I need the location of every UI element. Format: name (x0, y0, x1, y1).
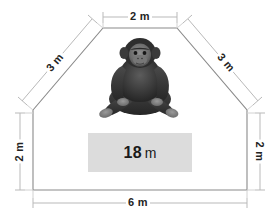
chimp-muzzle (133, 55, 147, 65)
chimp-right-eye (143, 51, 147, 55)
chimp-right-nostril (141, 58, 143, 59)
chimp-left-nostril (137, 58, 139, 59)
area-unit: m (145, 145, 157, 161)
dimension-label-left-vertical: 2 m (14, 140, 25, 164)
area-value: 18 (124, 144, 142, 162)
chimp-left-ear (120, 47, 129, 59)
geometry-diagram-canvas: 18 m 2 m 3 m 3 m 2 m 2 m 6 m (0, 0, 279, 219)
dimension-label-right-vertical: 2 m (254, 140, 265, 164)
chimp-left-eye (134, 51, 138, 55)
chimp-right-ear (152, 47, 161, 59)
chimp-right-hand (151, 98, 163, 106)
chimp-left-hand (117, 98, 129, 106)
chimpanzee-icon (96, 36, 184, 122)
dimension-label-bottom: 6 m (126, 197, 150, 208)
dimension-label-top: 2 m (128, 11, 152, 22)
area-callout: 18 m (88, 133, 192, 172)
